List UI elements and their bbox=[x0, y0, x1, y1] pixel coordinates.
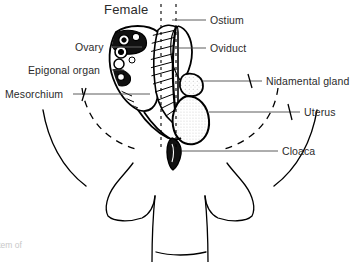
label-uterus: Uterus bbox=[304, 106, 336, 118]
page-title: Female bbox=[104, 2, 149, 17]
cloaca-opening bbox=[167, 138, 181, 170]
anatomical-figure: Female Ostium Oviduct Nidamental gland U… bbox=[0, 0, 360, 262]
label-ostium: Ostium bbox=[210, 14, 244, 26]
tail bbox=[152, 196, 208, 262]
label-nidamental-gland: Nidamental gland bbox=[266, 75, 349, 87]
label-epigonal-organ: Epigonal organ bbox=[28, 64, 100, 76]
label-ovary: Ovary bbox=[75, 41, 104, 53]
uterus-sac bbox=[173, 96, 209, 144]
ovary-follicles bbox=[110, 26, 158, 112]
caption-fragment: stem of bbox=[0, 240, 22, 250]
diagram-canvas bbox=[0, 0, 360, 262]
label-mesorchium: Mesorchium bbox=[5, 88, 63, 100]
pelvic-fins bbox=[106, 163, 254, 221]
label-cloaca: Cloaca bbox=[282, 145, 315, 157]
label-oviduct: Oviduct bbox=[210, 42, 246, 54]
